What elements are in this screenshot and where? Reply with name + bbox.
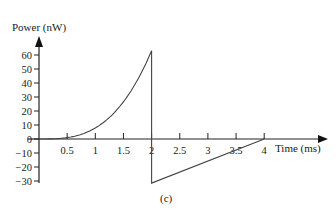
x-tick-label: 1 [93,145,98,156]
x-tick-label: 2.5 [173,145,186,156]
y-tick-label: 10 [22,120,33,131]
y-tick-label: −30 [16,176,32,187]
y-axis-arrow-icon [35,36,43,47]
y-axis-title: Power (nW) [12,21,66,34]
x-tick-label: 4 [262,145,268,156]
y-tick-label: −10 [16,148,32,159]
axis-ticks: 6050403020100−10−20−300.511.522.533.54 [16,50,268,187]
y-tick-label: 40 [22,78,33,89]
power-curve [39,51,264,183]
y-tick-label: 30 [22,92,33,103]
figure-caption: (c) [160,192,173,205]
axes [28,36,328,183]
x-axis-title: Time (ms) [275,142,321,155]
y-tick-label: 50 [22,64,33,75]
y-tick-label: 60 [22,50,33,61]
y-tick-label: 20 [22,106,33,117]
x-tick-label: 3 [205,145,210,156]
x-tick-label: 1.5 [117,145,130,156]
power-vs-time-chart: 6050403020100−10−20−300.511.522.533.54 P… [0,0,336,218]
x-tick-label: 0.5 [61,145,74,156]
y-tick-label: 0 [27,134,32,145]
y-tick-label: −20 [16,162,32,173]
